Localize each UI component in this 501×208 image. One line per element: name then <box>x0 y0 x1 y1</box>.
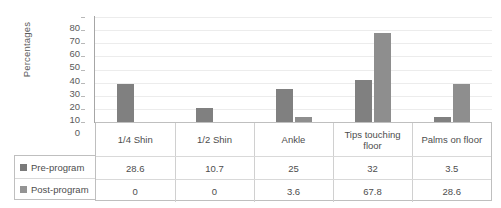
y-tick-label: 40 <box>52 76 80 86</box>
value-cell: 28.6 <box>96 157 175 180</box>
value-cell: 0 <box>175 180 254 203</box>
table-row-pre-program: 28.6 10.7 25 32 3.5 <box>96 157 491 180</box>
y-axis-line <box>94 16 95 123</box>
y-tick-mark <box>81 109 85 110</box>
legend-item-post-program[interactable]: Post-program <box>15 178 95 200</box>
y-tick-mark <box>81 96 85 97</box>
data-table-region: Pre-program Post-program 1/4 Shin 1/2 Sh… <box>14 122 492 201</box>
value-cell: 25 <box>254 157 333 180</box>
y-tick-label: 50 <box>52 62 80 72</box>
y-axis-tick-labels: 80706050403020100 <box>52 11 80 123</box>
category-cell: 1/2 Shin <box>175 123 254 157</box>
value-cell: 10.7 <box>175 157 254 180</box>
y-axis-title: Percentages <box>21 0 32 100</box>
value-cell: 28.6 <box>412 180 491 203</box>
y-tick-label: 20 <box>52 102 80 112</box>
value-cell: 67.8 <box>333 180 412 203</box>
category-cell: Tips touching floor <box>333 123 412 157</box>
y-tick-mark <box>81 43 85 44</box>
table-row-categories: 1/4 Shin 1/2 Shin Ankle Tips touching fl… <box>96 123 491 157</box>
value-cell: 3.5 <box>412 157 491 180</box>
category-cell: 1/4 Shin <box>96 123 175 157</box>
bar-pre-program[interactable] <box>117 84 134 122</box>
bar-group <box>117 17 153 122</box>
value-cell: 3.6 <box>254 180 333 203</box>
legend: Pre-program Post-program <box>14 155 95 200</box>
y-tick-mark <box>81 83 85 84</box>
bar-pre-program[interactable] <box>355 80 372 122</box>
y-tick-label: 60 <box>52 49 80 59</box>
category-cell: Ankle <box>254 123 333 157</box>
legend-item-pre-program[interactable]: Pre-program <box>15 156 95 178</box>
y-tick-mark <box>81 56 85 57</box>
y-tick-label: 80 <box>52 23 80 33</box>
category-cell: Palms on floor <box>412 123 491 157</box>
legend-label-pre: Pre-program <box>31 162 84 173</box>
bar-pre-program[interactable] <box>276 89 293 122</box>
value-cell: 32 <box>333 157 412 180</box>
table-row-post-program: 0 0 3.6 67.8 28.6 <box>96 180 491 203</box>
plot-region: Percentages 80706050403020100 <box>0 0 501 123</box>
y-tick-label: 30 <box>52 89 80 99</box>
legend-swatch-icon-pre <box>20 164 27 171</box>
y-tick-mark <box>81 70 85 71</box>
bar-group <box>434 17 470 122</box>
bar-post-program[interactable] <box>374 33 391 122</box>
bar-group <box>196 17 232 122</box>
value-cell: 0 <box>96 180 175 203</box>
bar-group <box>276 17 312 122</box>
data-table: 1/4 Shin 1/2 Shin Ankle Tips touching fl… <box>96 123 491 202</box>
bar-group <box>355 17 391 122</box>
y-tick-label: 70 <box>52 36 80 46</box>
y-tick-mark <box>81 30 85 31</box>
chart-page: Percentages 80706050403020100 Pre-progra… <box>0 0 501 208</box>
y-tick-mark <box>81 17 85 18</box>
bar-post-program[interactable] <box>453 84 470 122</box>
plot-area <box>95 17 492 122</box>
legend-swatch-icon-post <box>20 186 27 193</box>
bar-pre-program[interactable] <box>196 108 213 122</box>
legend-label-post: Post-program <box>31 184 89 195</box>
value-grid: 1/4 Shin 1/2 Shin Ankle Tips touching fl… <box>95 122 492 201</box>
